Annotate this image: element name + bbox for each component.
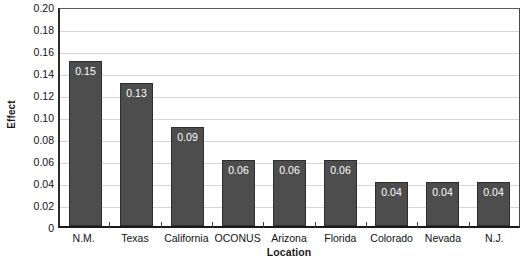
plot-area: 0.150.130.090.060.060.060.040.040.04 (58, 8, 520, 228)
bar-value-label: 0.06 (325, 165, 357, 176)
y-axis-tick-labels: 0.200.180.160.140.120.100.080.060.040.02… (18, 8, 54, 228)
y-axis-tick-label: 0.04 (34, 179, 54, 190)
y-axis-tick-label: 0 (48, 223, 54, 234)
x-axis-tick-label: California (161, 230, 212, 246)
y-axis-tick-label: 0.18 (34, 25, 54, 36)
y-axis-tick-label: 0.06 (34, 157, 54, 168)
bar-slot: 0.04 (366, 9, 417, 226)
x-axis-tick-mark (109, 222, 110, 228)
bar-slot: 0.06 (315, 9, 366, 226)
y-axis-tick-label: 0.14 (34, 69, 54, 80)
bar-slot: 0.15 (60, 9, 111, 226)
y-axis-tick-label: 0.10 (34, 113, 54, 124)
x-axis-tick-label: Florida (315, 230, 366, 246)
x-axis-tick-labels: N.M.TexasCaliforniaOCONUSArizonaFloridaC… (58, 230, 520, 246)
bar[interactable]: 0.13 (120, 83, 154, 226)
bar[interactable]: 0.04 (426, 182, 460, 226)
x-axis-tick-label: Nevada (417, 230, 468, 246)
x-axis-tick-mark (417, 222, 418, 228)
bar-slot: 0.04 (468, 9, 519, 226)
x-axis-tick-mark (161, 222, 162, 228)
y-axis-tick-label: 0.02 (34, 201, 54, 212)
bar-slot: 0.06 (264, 9, 315, 226)
bar-slot: 0.04 (417, 9, 468, 226)
y-axis-tick-label: 0.20 (34, 3, 54, 14)
x-axis-tick-label: Colorado (366, 230, 417, 246)
x-axis-tick-label: Texas (109, 230, 160, 246)
bar[interactable]: 0.06 (273, 160, 307, 226)
x-axis-tick-mark (469, 222, 470, 228)
bar[interactable]: 0.15 (69, 61, 103, 226)
x-axis-tick-mark (315, 222, 316, 228)
y-axis-tick-label: 0.16 (34, 47, 54, 58)
x-axis-tick-label: N.M. (58, 230, 109, 246)
bar-value-label: 0.06 (223, 165, 255, 176)
bar[interactable]: 0.04 (477, 182, 511, 226)
y-axis-tick-label: 0.12 (34, 91, 54, 102)
bar-value-label: 0.15 (70, 66, 102, 77)
bar-value-label: 0.09 (172, 132, 204, 143)
bars-layer: 0.150.130.090.060.060.060.040.040.04 (60, 9, 519, 226)
x-axis-tick-label: N.J. (469, 230, 520, 246)
bar-value-label: 0.04 (376, 187, 408, 198)
bar[interactable]: 0.06 (222, 160, 256, 226)
bar-value-label: 0.04 (427, 187, 459, 198)
x-axis-title: Location (58, 246, 520, 258)
x-axis-tick-label: OCONUS (212, 230, 263, 246)
bar-chart: Effect 0.200.180.160.140.120.100.080.060… (0, 0, 528, 267)
bar-slot: 0.09 (162, 9, 213, 226)
bar-value-label: 0.13 (121, 88, 153, 99)
x-axis-tick-mark (366, 222, 367, 228)
y-axis-title-text: Effect (6, 100, 17, 128)
bar[interactable]: 0.09 (171, 127, 205, 226)
x-axis-tick-mark (263, 222, 264, 228)
bar-slot: 0.13 (111, 9, 162, 226)
x-axis-tick-marks (58, 222, 520, 230)
bar-value-label: 0.04 (478, 187, 510, 198)
bar-value-label: 0.06 (274, 165, 306, 176)
y-axis-tick-label: 0.08 (34, 135, 54, 146)
x-axis-tick-label: Arizona (263, 230, 314, 246)
x-axis-tick-mark (212, 222, 213, 228)
bar[interactable]: 0.06 (324, 160, 358, 226)
bar[interactable]: 0.04 (375, 182, 409, 226)
bar-slot: 0.06 (213, 9, 264, 226)
